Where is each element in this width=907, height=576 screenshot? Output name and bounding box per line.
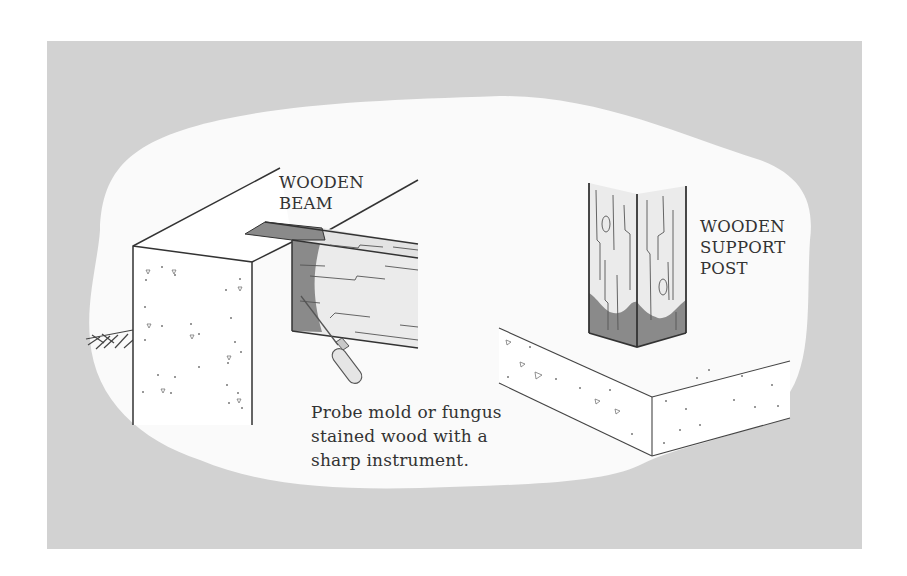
- probe-instruction-caption: Probe mold or fungus stained wood with a…: [311, 400, 502, 472]
- illustration: [0, 0, 907, 576]
- wooden-support-post-label: WOODEN SUPPORT POST: [700, 216, 785, 279]
- wooden-beam-label: WOODEN BEAM: [279, 172, 364, 214]
- wooden-support-post: [589, 183, 686, 347]
